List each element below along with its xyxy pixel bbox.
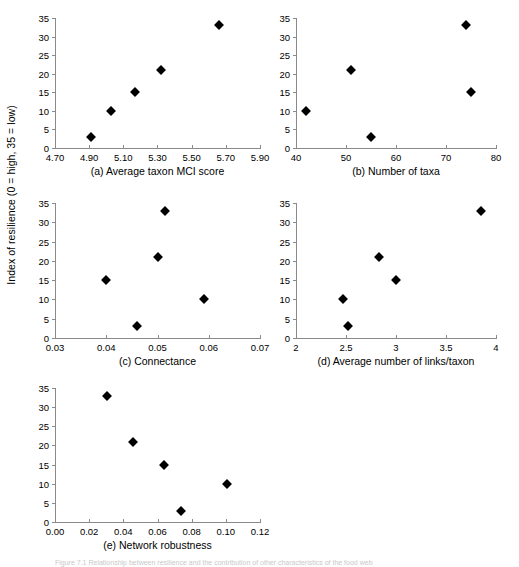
- y-axis-tick: [293, 222, 296, 223]
- x-axis-tick: [260, 145, 261, 148]
- y-axis-tick: [52, 242, 55, 243]
- y-axis-tick-label: 20: [25, 255, 49, 266]
- x-axis-tick-label: 5.50: [182, 152, 201, 163]
- y-axis-tick-label: 15: [25, 459, 49, 470]
- x-axis-tick-label: 2: [293, 342, 298, 353]
- data-point-marker: [222, 479, 232, 489]
- data-point-marker: [199, 294, 209, 304]
- data-point-marker: [130, 87, 140, 97]
- figure-panel-grid: Index of resilience (0 = high, 35 = low)…: [0, 0, 519, 567]
- y-axis-tick: [52, 148, 55, 149]
- panel-title: (e) Network robustness: [103, 539, 212, 551]
- x-axis-tick-label: 5.90: [251, 152, 270, 163]
- y-axis-tick-label: 20: [25, 68, 49, 79]
- x-axis-tick: [496, 335, 497, 338]
- y-axis-tick-label: 5: [25, 313, 49, 324]
- shared-y-axis-label: Index of resilience (0 = high, 35 = low): [0, 0, 22, 390]
- x-axis-line: [55, 522, 261, 523]
- x-axis-tick: [209, 335, 210, 338]
- x-axis-tick-label: 80: [491, 152, 502, 163]
- x-axis-tick: [226, 145, 227, 148]
- x-axis-tick: [260, 335, 261, 338]
- y-axis-tick-label: 30: [266, 217, 290, 228]
- y-axis-tick-label: 25: [25, 236, 49, 247]
- x-axis-tick-label: 4.70: [46, 152, 65, 163]
- x-axis-tick: [346, 145, 347, 148]
- y-axis-tick-label: 5: [266, 313, 290, 324]
- x-axis-tick-label: 0.03: [46, 342, 65, 353]
- x-axis-tick-label: 0.08: [182, 526, 201, 537]
- x-axis-tick-label: 0.06: [200, 342, 219, 353]
- y-axis-tick: [293, 129, 296, 130]
- y-axis-tick-label: 10: [25, 105, 49, 116]
- x-axis-tick-label: 5.10: [114, 152, 133, 163]
- y-axis-tick: [52, 338, 55, 339]
- data-point-marker: [86, 132, 96, 142]
- data-point-marker: [106, 106, 116, 116]
- data-point-marker: [159, 460, 169, 470]
- y-axis-tick-label: 30: [25, 402, 49, 413]
- y-axis-tick: [52, 92, 55, 93]
- y-axis-tick-label: 5: [25, 497, 49, 508]
- y-axis-tick-label: 20: [266, 255, 290, 266]
- x-axis-tick: [396, 335, 397, 338]
- y-axis-tick-label: 15: [25, 275, 49, 286]
- y-axis-tick-label: 25: [266, 50, 290, 61]
- y-axis-tick-label: 15: [266, 87, 290, 98]
- y-axis-tick: [52, 222, 55, 223]
- data-point-marker: [466, 87, 476, 97]
- x-axis-tick: [89, 145, 90, 148]
- x-axis-tick-label: 0.06: [148, 526, 167, 537]
- y-axis-line: [55, 203, 56, 339]
- y-axis-tick: [293, 148, 296, 149]
- y-axis-tick-label: 10: [266, 294, 290, 305]
- data-point-marker: [102, 391, 112, 401]
- data-point-marker: [391, 275, 401, 285]
- x-axis-tick: [346, 335, 347, 338]
- y-axis-tick-label: 35: [266, 198, 290, 209]
- y-axis-tick-label: 35: [25, 198, 49, 209]
- x-axis-tick: [396, 145, 397, 148]
- panel-title: (a) Average taxon MCI score: [91, 165, 224, 177]
- x-axis-tick-label: 4: [493, 342, 498, 353]
- data-point-marker: [101, 275, 111, 285]
- y-axis-tick: [52, 484, 55, 485]
- panel-title: (d) Average number of links/taxon: [318, 355, 475, 367]
- y-axis-label-text: Index of resilience (0 = high, 35 = low): [5, 105, 17, 284]
- data-point-marker: [160, 206, 170, 216]
- data-point-marker: [132, 321, 142, 331]
- y-axis-tick-label: 20: [266, 68, 290, 79]
- x-axis-tick: [55, 335, 56, 338]
- x-axis-tick: [496, 145, 497, 148]
- y-axis-line: [296, 203, 297, 339]
- y-axis-tick-label: 35: [25, 383, 49, 394]
- y-axis-tick-label: 35: [266, 13, 290, 24]
- y-axis-tick-label: 25: [25, 50, 49, 61]
- y-axis-tick-label: 20: [25, 440, 49, 451]
- y-axis-tick: [293, 280, 296, 281]
- data-point-marker: [461, 20, 471, 30]
- y-axis-tick-label: 5: [25, 124, 49, 135]
- x-axis-line: [296, 148, 497, 149]
- panel-d: 0510152025303522.533.54(d) Average numbe…: [296, 203, 496, 338]
- y-axis-tick: [293, 92, 296, 93]
- y-axis-tick: [52, 407, 55, 408]
- x-axis-tick-label: 0.07: [251, 342, 270, 353]
- y-axis-tick-label: 5: [266, 124, 290, 135]
- data-point-marker: [343, 321, 353, 331]
- y-axis-tick: [52, 319, 55, 320]
- x-axis-line: [296, 338, 497, 339]
- y-axis-tick: [52, 522, 55, 523]
- y-axis-line: [55, 388, 56, 523]
- x-axis-tick: [123, 145, 124, 148]
- panel-e: 051015202530350.000.020.040.060.080.100.…: [55, 388, 260, 522]
- x-axis-tick: [158, 519, 159, 522]
- y-axis-tick: [52, 111, 55, 112]
- figure-caption: Figure 7.1 Relationship between resilien…: [55, 559, 505, 567]
- y-axis-tick: [52, 37, 55, 38]
- x-axis-tick: [446, 145, 447, 148]
- y-axis-tick: [293, 37, 296, 38]
- y-axis-tick-label: 35: [25, 13, 49, 24]
- y-axis-tick-label: 30: [25, 217, 49, 228]
- x-axis-tick: [296, 145, 297, 148]
